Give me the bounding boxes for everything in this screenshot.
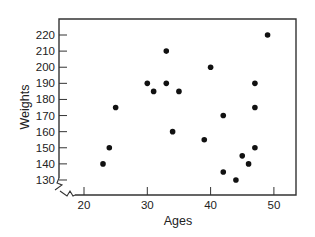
x-axis-break-icon xyxy=(60,191,75,196)
data-point xyxy=(252,105,258,111)
y-tick-label: 220 xyxy=(36,29,55,41)
data-point xyxy=(265,32,271,38)
y-tick-label: 150 xyxy=(36,142,55,154)
y-tick-label: 200 xyxy=(36,61,55,73)
y-tick-label: 140 xyxy=(36,158,55,170)
x-axis-title: Ages xyxy=(164,214,193,228)
data-point xyxy=(233,177,239,183)
data-point xyxy=(252,145,258,151)
data-point xyxy=(220,169,226,175)
axes-box xyxy=(59,19,296,195)
x-tick-label: 20 xyxy=(78,199,91,211)
y-axis-title: Weights xyxy=(18,85,32,130)
data-point xyxy=(239,153,245,159)
data-point xyxy=(220,113,226,119)
y-tick-label: 160 xyxy=(36,126,55,138)
data-point xyxy=(163,81,169,87)
data-point xyxy=(113,105,119,111)
data-point xyxy=(107,145,113,151)
scatter-chart: 130140150160170180190200210220 20304050 … xyxy=(0,0,315,237)
data-point xyxy=(246,161,252,167)
data-point xyxy=(163,48,169,54)
y-tick-label: 190 xyxy=(36,77,55,89)
x-tick-label: 50 xyxy=(268,199,281,211)
y-tick-label: 180 xyxy=(36,93,55,105)
data-point xyxy=(252,81,258,87)
x-tick-label: 30 xyxy=(141,199,154,211)
data-point xyxy=(201,137,207,143)
plot-frame xyxy=(55,19,296,196)
data-point xyxy=(100,161,106,167)
y-tick-label: 170 xyxy=(36,110,55,122)
data-point xyxy=(151,89,157,95)
y-tick-label: 210 xyxy=(36,45,55,57)
y-axis: 130140150160170180190200210220 xyxy=(36,29,67,186)
y-tick-label: 130 xyxy=(36,174,55,186)
x-axis: 20304050 xyxy=(78,187,281,211)
data-point xyxy=(208,64,214,70)
data-point xyxy=(176,89,182,95)
data-point xyxy=(145,81,151,87)
data-points xyxy=(100,32,270,183)
x-tick-label: 40 xyxy=(204,199,217,211)
data-point xyxy=(170,129,176,135)
